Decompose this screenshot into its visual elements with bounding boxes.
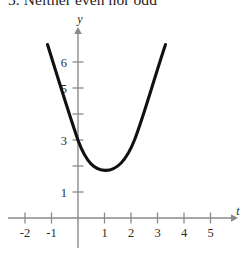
x-tick-labels: -2 -1 1 2 3 4 5 — [20, 226, 214, 240]
x-tick-label-3: 3 — [154, 226, 160, 240]
y-tick-label-6: 6 — [61, 56, 67, 70]
x-tick-label-1: 1 — [101, 226, 107, 240]
y-tick-labels: 1 3 5 6 — [61, 56, 67, 200]
x-tick-label--1: -1 — [46, 226, 56, 240]
parabola-plot: -2 -1 1 2 3 4 5 1 3 5 6 t y — [0, 0, 244, 261]
x-tick-label-4: 4 — [181, 226, 188, 240]
x-tick-label-5: 5 — [207, 226, 213, 240]
y-tick-label-1: 1 — [61, 186, 67, 200]
y-axis-label: y — [76, 12, 83, 26]
figure-container: 5. Neither even nor odd — [0, 0, 244, 261]
y-axis-arrow-icon — [74, 27, 82, 34]
x-axis-label: t — [236, 204, 240, 218]
x-tick-label--2: -2 — [20, 226, 30, 240]
x-tick-label-2: 2 — [128, 226, 134, 240]
axis-lines — [8, 27, 238, 248]
y-tick-label-3: 3 — [61, 134, 67, 148]
